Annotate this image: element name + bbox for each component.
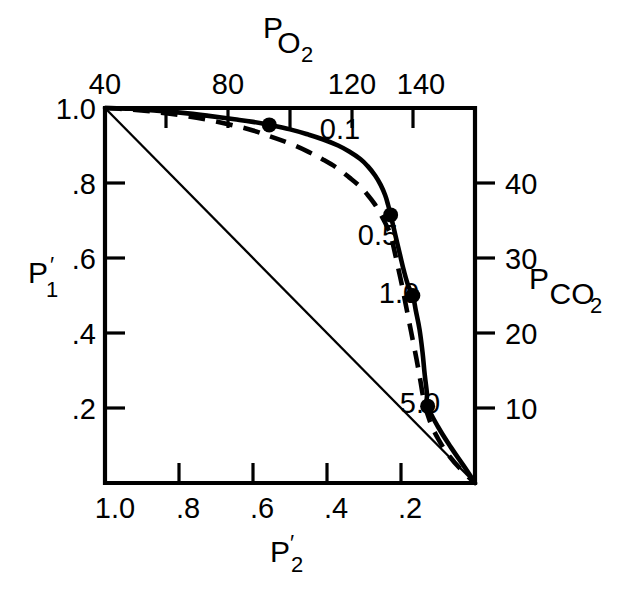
curve-label-5-0: 5.0	[400, 387, 440, 419]
right-axis-title-sub: CO	[550, 277, 595, 310]
bottom-tick-label-3: .4	[324, 492, 348, 524]
left-axis-title-sub: 1	[46, 277, 58, 302]
bottom-tick-label-0: 1.0	[95, 492, 135, 524]
right-tick-label-0: 40	[505, 168, 537, 200]
bottom-axis-title: P ′ 2	[270, 530, 303, 577]
right-tick-label-3: 10	[505, 393, 537, 425]
bottom-tick-label-1: .8	[176, 492, 200, 524]
left-axis-title-prime: ′	[50, 252, 54, 277]
figure-container: 40 80 120 140 P O 2 1.0 .8 .6 .4 .2 P ′ …	[0, 0, 623, 593]
curve-label-0-1: 0.1	[320, 113, 360, 145]
left-axis-title: P ′ 1	[28, 252, 58, 302]
top-tick-label-3: 140	[397, 68, 445, 100]
top-tick-label-1: 80	[212, 68, 244, 100]
left-tick-label-0: 1.0	[56, 93, 96, 125]
right-axis-title-base: P	[529, 262, 549, 295]
left-tick-label-4: .2	[72, 393, 96, 425]
bottom-tick-label-4: .2	[398, 492, 422, 524]
chart-svg: 40 80 120 140 P O 2 1.0 .8 .6 .4 .2 P ′ …	[0, 0, 623, 593]
right-tick-label-2: 20	[505, 318, 537, 350]
right-axis-title: P CO 2	[529, 262, 602, 318]
curve-label-1-0: 1.0	[379, 277, 419, 309]
right-axis-ticks	[475, 183, 495, 408]
left-tick-label-3: .4	[72, 318, 96, 350]
left-tick-label-1: .8	[72, 168, 96, 200]
top-axis-title: P O 2	[263, 11, 313, 67]
bottom-tick-label-2: .6	[250, 492, 274, 524]
top-axis-title-sub2: 2	[301, 42, 313, 67]
curve-label-0-5: 0.5	[358, 219, 398, 251]
top-axis-title-sub: O	[277, 26, 300, 59]
data-point-marker	[262, 117, 277, 132]
bottom-axis-title-base: P	[270, 535, 290, 568]
bottom-axis-title-sub: 2	[291, 552, 303, 577]
left-tick-label-2: .6	[72, 243, 96, 275]
top-tick-label-2: 120	[328, 68, 376, 100]
right-axis-title-sub2: 2	[590, 293, 602, 318]
